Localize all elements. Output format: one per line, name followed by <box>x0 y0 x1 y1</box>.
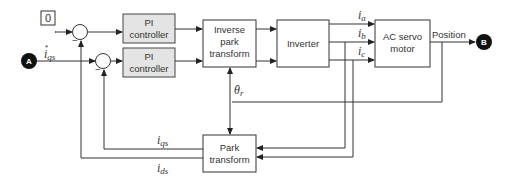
block-diagram: 0 − A iqs * − PI controller PI controlle… <box>0 0 510 181</box>
svg-text:PI: PI <box>145 51 154 62</box>
summer2-minus-sign: − <box>95 64 101 75</box>
svg-text:controller: controller <box>129 63 168 74</box>
svg-text:PI: PI <box>145 17 154 28</box>
iqs-feedback-label: iqs <box>157 133 169 148</box>
svg-text:0: 0 <box>45 12 51 24</box>
inverse-park-transform-block: Inverse park transform <box>203 20 256 67</box>
svg-text:A: A <box>26 57 32 66</box>
reference-zero-block: 0 <box>41 11 55 25</box>
pi-controller-2: PI controller <box>123 48 175 77</box>
ids-feedback-label: ids <box>157 161 169 176</box>
ia-label: ia <box>358 8 366 23</box>
ib-label: ib <box>358 26 366 41</box>
ac-servo-motor-block: AC servo motor <box>375 20 430 67</box>
svg-text:*: * <box>45 43 48 52</box>
svg-text:motor: motor <box>390 43 414 54</box>
inverter-block: Inverter <box>277 20 329 67</box>
connector-b: B <box>476 34 492 50</box>
svg-text:transform: transform <box>209 48 249 59</box>
svg-text:park: park <box>220 36 239 47</box>
svg-text:AC servo: AC servo <box>383 31 422 42</box>
svg-text:transform: transform <box>209 154 249 165</box>
svg-text:controller: controller <box>129 29 168 40</box>
svg-text:Inverter: Inverter <box>287 38 319 49</box>
theta-r-label: θr <box>234 83 244 98</box>
svg-text:Inverse: Inverse <box>214 24 245 35</box>
svg-text:B: B <box>481 38 487 47</box>
park-transform-block: Park transform <box>203 135 256 172</box>
iqs-ref-label: iqs * <box>44 43 56 62</box>
connector-a: A <box>21 53 37 69</box>
svg-text:Park: Park <box>220 142 240 153</box>
position-label: Position <box>432 29 466 40</box>
summer1-minus-sign: − <box>72 35 78 46</box>
ic-label: ic <box>358 44 365 59</box>
pi-controller-1: PI controller <box>123 14 175 43</box>
